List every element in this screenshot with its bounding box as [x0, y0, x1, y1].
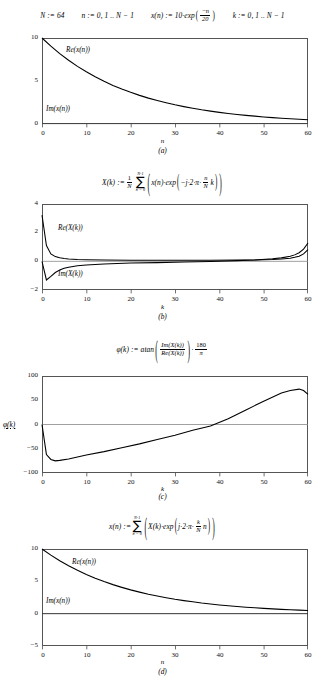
panel-d-caption: (d)	[0, 667, 325, 676]
equation-phase-denominator: Re(X(k))	[160, 350, 185, 357]
equation-dft-coef-den: N	[126, 183, 132, 190]
equation-dft-arg-lead: −j·2·π·	[180, 178, 201, 187]
panel-b-ytick-0: 4	[18, 199, 38, 207]
panel-a-ytick-1: 5	[18, 76, 38, 84]
equation-dft-arg-den: N	[203, 183, 209, 190]
equation-phase-lhs: φ(k) := atan	[116, 345, 154, 354]
definitions-line: N := 64 n := 0, 1 .. N − 1 x(n) := 10·ex…	[0, 8, 325, 23]
equation-idft-body: x(n) := N-1 ∑ n = 0 ( X(k)·exp ( j·2·π· …	[109, 516, 216, 536]
panel-c-ytick-0: 100	[14, 371, 38, 379]
panel-c-ytick-1: 50	[14, 395, 38, 403]
right-paren-icon: )	[212, 8, 214, 23]
panel-a-ytick-0: 10	[18, 33, 38, 41]
panel-a-ytick-2: 0	[18, 119, 38, 127]
panel-d-xlabel: n	[0, 658, 325, 666]
panel-c: φ(k) 100 50 0 −50 −100 0 10 20 30 40 50 …	[0, 368, 325, 498]
equation-idft-arg-fraction: k N	[195, 519, 201, 534]
equation-dft-body: X(k) := 1 N N-1 ∑ n = 0 ( x(n)·exp ( −j·…	[102, 172, 223, 192]
panel-b-xtick-5: 50	[257, 295, 271, 303]
equation-idft-arg-tail: n	[203, 522, 207, 531]
right-paren-icon: )	[219, 167, 222, 198]
panel-a-caption: (a)	[0, 146, 325, 155]
panel-c-ytick-3: −50	[10, 444, 38, 452]
equation-idft-arg-den: N	[195, 527, 201, 534]
panel-b-xlabel: k	[0, 303, 325, 311]
equation-idft-arg-lead: j·2·π·	[178, 522, 194, 531]
panel-a-curves	[42, 38, 308, 124]
left-paren-inner-icon: (	[175, 515, 177, 537]
equation-dft-body-lead: x(n)·exp	[151, 178, 176, 187]
definition-k: k := 0, 1 .. N − 1	[233, 11, 285, 20]
equation-dft-sum-lower: n = 0	[136, 188, 145, 192]
panel-a: 10 5 0 Re(x(n)) Im(x(n)) 0 10 20 30 40 5…	[0, 30, 325, 160]
panel-a-xtick-5: 50	[257, 129, 271, 137]
definition-n: n := 0, 1 .. N − 1	[82, 11, 134, 20]
equation-dft: X(k) := 1 N N-1 ∑ n = 0 ( x(n)·exp ( −j·…	[0, 172, 325, 192]
exponent-denominator: 20	[201, 16, 210, 23]
panel-a-xlabel: n	[0, 137, 325, 145]
right-paren-icon: )	[212, 511, 215, 542]
summation-icon: N-1 ∑ n = 0	[133, 516, 142, 536]
equation-dft-coefficient: 1 N	[126, 175, 132, 190]
panel-d-ytick-3: −5	[14, 641, 38, 649]
panel-b-ytick-3: −2	[14, 285, 38, 293]
panel-b-caption: (b)	[0, 312, 325, 321]
equation-dft-lhs: X(k) :=	[102, 178, 125, 187]
left-paren-icon: (	[144, 511, 147, 542]
panel-a-xtick-0: 0	[36, 129, 50, 137]
panel-b-ytick-1: 2	[18, 227, 38, 235]
equation-phase-ratio: Im(X(k)) Re(X(k))	[160, 342, 185, 357]
equation-idft-sum-lower: n = 0	[133, 532, 142, 536]
equation-phase: φ(k) := atan ( Im(X(k)) Re(X(k)) ) · 180…	[0, 342, 325, 357]
panel-a-xtick-1: 10	[80, 129, 94, 137]
right-paren-inner-icon: )	[208, 515, 210, 537]
equation-phase-deg-den: π	[199, 350, 204, 357]
panel-a-xtick-2: 20	[124, 129, 138, 137]
equation-dft-arg-fraction: n N	[203, 175, 209, 190]
equation-phase-body: φ(k) := atan ( Im(X(k)) Re(X(k)) ) · 180…	[116, 342, 208, 357]
definition-xn-lead: x(n) := 10·exp	[151, 11, 195, 20]
panel-b-xtick-6: 60	[301, 295, 315, 303]
panel-b-xtick-4: 40	[213, 295, 227, 303]
equation-idft-body-lead: X(k)·exp	[148, 522, 174, 531]
equation-idft: x(n) := N-1 ∑ n = 0 ( X(k)·exp ( j·2·π· …	[0, 516, 325, 536]
panel-c-curves	[42, 376, 308, 473]
exponent-fraction: −n 20	[200, 8, 210, 23]
panel-d-ytick-1: 5	[18, 576, 38, 584]
figure-page: N := 64 n := 0, 1 .. N − 1 x(n) := 10·ex…	[0, 0, 325, 696]
panel-b-xtick-3: 30	[168, 295, 182, 303]
equation-dft-arg-tail: k	[210, 178, 213, 187]
panel-a-xtick-3: 30	[168, 129, 182, 137]
panel-a-xtick-6: 60	[301, 129, 315, 137]
equation-idft-lhs: x(n) :=	[109, 522, 131, 531]
panel-d: 10 5 0 −5 Re(x(n)) Im(x(n)) 0 10 20 30 4…	[0, 541, 325, 691]
left-paren-icon: (	[196, 8, 198, 23]
right-paren-inner-icon: )	[215, 171, 217, 193]
panel-b-xtick-0: 0	[36, 295, 50, 303]
panel-c-ytick-2: 0	[14, 420, 38, 428]
left-paren-icon: (	[155, 334, 158, 365]
panel-c-caption: (c)	[0, 492, 325, 501]
panel-d-curves	[42, 549, 308, 646]
panel-d-ytick-2: 0	[18, 609, 38, 617]
equation-phase-degrees: 180 π	[195, 342, 207, 357]
panel-b-curves	[42, 204, 308, 290]
equation-phase-multiply: ·	[191, 345, 194, 354]
panel-d-ytick-0: 10	[18, 544, 38, 552]
summation-icon: N-1 ∑ n = 0	[136, 172, 145, 192]
panel-c-ytick-4: −100	[10, 468, 38, 476]
left-paren-icon: (	[148, 167, 151, 198]
panel-b-ytick-2: 0	[18, 256, 38, 264]
panel-b-xtick-1: 10	[80, 295, 94, 303]
panel-b: 4 2 0 −2 Re(X(k)) Im(X(k)) 0 10 20 30 40…	[0, 196, 325, 326]
right-paren-icon: )	[188, 334, 191, 365]
panel-b-xtick-2: 20	[124, 295, 138, 303]
definition-N: N := 64	[40, 11, 64, 20]
definition-xn: x(n) := 10·exp ( −n 20 )	[151, 8, 216, 23]
left-paren-inner-icon: (	[177, 171, 179, 193]
panel-a-xtick-4: 40	[213, 129, 227, 137]
